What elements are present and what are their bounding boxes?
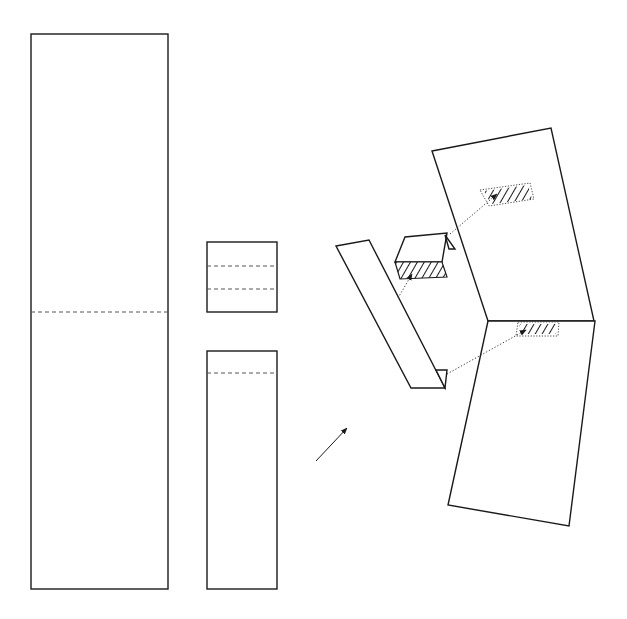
panel-upper [432, 128, 594, 321]
tab-hatched-face [395, 262, 447, 279]
folded-tab [395, 233, 455, 279]
diagram-svg [0, 0, 627, 619]
tab-top-face [395, 233, 447, 262]
square-piece [207, 242, 277, 312]
tall-sheet [31, 34, 168, 589]
tab-flap [445, 235, 455, 249]
narrow-strip [207, 351, 277, 589]
arrow-up-right-icon [316, 428, 347, 461]
panel-lower [448, 321, 595, 526]
bent-panel [432, 128, 595, 526]
diagram-canvas [0, 0, 627, 619]
